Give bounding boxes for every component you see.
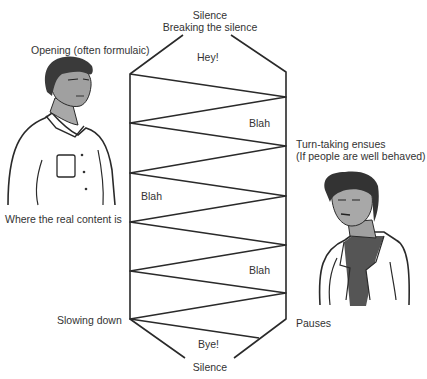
well-behaved-label: (If people are well behaved) — [296, 150, 426, 162]
woman-illustration — [320, 172, 410, 306]
utterance-blah-2: Blah — [141, 190, 162, 202]
top-silence-label: Silence — [193, 9, 227, 21]
slowing-down-label: Slowing down — [57, 314, 122, 326]
pauses-label: Pauses — [296, 317, 331, 329]
man-illustration — [8, 56, 115, 205]
opening-label: Opening (often formulaic) — [31, 44, 149, 56]
real-content-label: Where the real content is — [5, 213, 122, 225]
turn-taking-label: Turn-taking ensues — [296, 138, 386, 150]
utterance-hey: Hey! — [197, 51, 219, 63]
breaking-silence-label: Breaking the silence — [163, 21, 258, 33]
bottom-silence-label: Silence — [193, 361, 227, 373]
utterance-bye: Bye! — [198, 338, 219, 350]
utterance-blah-3: Blah — [249, 264, 270, 276]
utterance-blah-1: Blah — [249, 117, 270, 129]
